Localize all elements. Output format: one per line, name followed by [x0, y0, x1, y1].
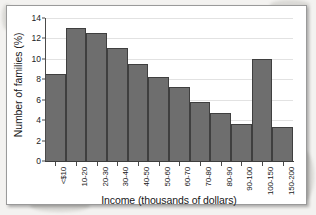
x-axis-label-cell: 100-150	[252, 167, 273, 193]
bar	[107, 48, 128, 161]
x-axis-tickmark	[138, 162, 139, 166]
x-axis-tickmark	[283, 162, 284, 166]
x-axis-label-cell: 20-30	[86, 167, 107, 193]
bar	[231, 124, 252, 161]
x-axis-tickmark	[241, 162, 242, 166]
x-axis-tickmark	[262, 162, 263, 166]
x-axis-tickmark	[97, 162, 98, 166]
bar	[210, 113, 231, 161]
x-axis-label-cell: 70-80	[190, 167, 211, 193]
bar	[148, 77, 169, 161]
x-axis-tickmark	[76, 162, 77, 166]
bar	[190, 102, 211, 161]
bar	[86, 33, 107, 161]
x-axis-tick-label: 150-200	[287, 167, 296, 195]
bar	[66, 28, 87, 161]
x-axis-tickmark	[221, 162, 222, 166]
x-axis-label-cell: 30-40	[107, 167, 128, 193]
x-axis-label-cell: 80-90	[210, 167, 231, 193]
histogram-figure: Number of families (%) 02468101214 <$101…	[0, 0, 316, 215]
x-axis-label-cell: 10-20	[66, 167, 87, 193]
screenshot-page: Number of families (%) 02468101214 <$101…	[0, 0, 316, 215]
y-axis-title: Number of families (%)	[12, 10, 24, 160]
x-axis-tickmark	[159, 162, 160, 166]
x-axis-title: Income (thousands of dollars)	[45, 194, 293, 206]
bar	[45, 74, 66, 161]
x-axis-label-cell: <$10	[45, 167, 66, 193]
y-axis-line	[45, 18, 46, 162]
x-axis-tickmark	[117, 162, 118, 166]
bar	[169, 87, 190, 161]
x-axis-label-cell: 90-100	[231, 167, 252, 193]
x-axis-tickmark	[55, 162, 56, 166]
x-axis-tickmark	[179, 162, 180, 166]
bar	[252, 59, 273, 161]
bar-series	[45, 18, 293, 161]
x-axis-label-cell: 40-50	[128, 167, 149, 193]
plot-area: 02468101214	[45, 18, 293, 161]
bar	[272, 127, 293, 161]
x-axis-tick-labels: <$1010-2020-3030-4040-5050-6060-7070-808…	[45, 167, 293, 193]
x-axis-label-cell: 60-70	[169, 167, 190, 193]
x-axis-tickmark	[200, 162, 201, 166]
x-axis-label-cell: 50-60	[148, 167, 169, 193]
x-axis-label-cell: 150-200	[272, 167, 293, 193]
bar	[128, 64, 149, 161]
